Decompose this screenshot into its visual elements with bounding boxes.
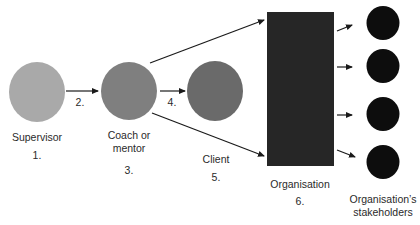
arrow-organisation-to-stakeholder-4 [337, 150, 355, 157]
stakeholder-node-3 [367, 97, 400, 131]
organisation-node [267, 12, 334, 166]
stakeholders-label-line2: stakeholders [353, 206, 413, 218]
supervisor-node [9, 62, 65, 122]
stakeholder-node-2 [367, 49, 400, 83]
stakeholder-node-1 [367, 6, 400, 40]
stakeholders-label-line1: Organisation’s [350, 193, 417, 205]
client-number: 5. [212, 171, 221, 183]
coach-node [101, 62, 157, 120]
organisation-label: Organisation [270, 178, 330, 190]
coach-number: 3. [125, 164, 134, 176]
coaching-supervision-diagram: Supervisor 1. 2. Coach or mentor 3. 4. C… [0, 0, 420, 225]
organisation-number: 6. [296, 195, 305, 207]
stakeholder-node-4 [367, 145, 400, 179]
client-label: Client [203, 153, 230, 165]
coach-label-line1: Coach or [108, 129, 151, 141]
arrow-coach-to-organisation-top [150, 20, 264, 63]
client-node [187, 61, 243, 121]
coach-label-line2: mentor [113, 142, 146, 154]
supervisor-label: Supervisor [12, 131, 63, 143]
edge-number-4: 4. [168, 96, 177, 108]
supervisor-number: 1. [33, 149, 42, 161]
edge-number-2: 2. [76, 96, 85, 108]
arrow-organisation-to-stakeholder-1 [337, 25, 352, 31]
